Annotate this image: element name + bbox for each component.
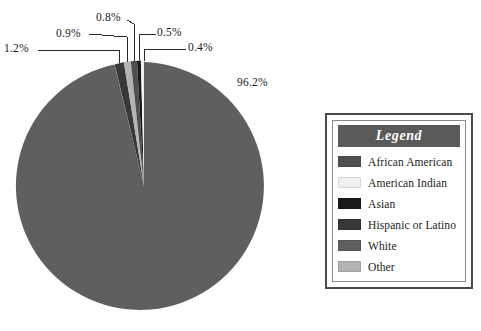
legend-swatch-hispanic-or-latino <box>338 219 361 230</box>
legend-label-american-indian: American Indian <box>368 177 447 189</box>
legend-item-american-indian: American Indian <box>338 173 460 193</box>
legend-item-hispanic-or-latino: Hispanic or Latino <box>338 215 460 235</box>
legend-label-asian: Asian <box>368 198 395 210</box>
leader-line-hispanic <box>38 50 119 63</box>
legend-item-african-american: African American <box>338 152 460 172</box>
legend-title: Legend <box>376 128 422 144</box>
leader-line-american-indian <box>144 49 186 61</box>
pie-label-hispanic-or-latino: 1.2% <box>4 42 29 54</box>
legend-label-white: White <box>368 240 397 252</box>
pie-label-white: 96.2% <box>237 76 268 88</box>
legend-title-bar: Legend <box>338 125 460 147</box>
legend: Legend African American American Indian … <box>325 113 473 289</box>
pie-label-african-american: 0.8% <box>96 11 121 23</box>
legend-item-white: White <box>338 236 460 256</box>
legend-label-hispanic-or-latino: Hispanic or Latino <box>368 219 456 231</box>
leader-line-other <box>89 34 127 62</box>
legend-item-asian: Asian <box>338 194 460 214</box>
legend-swatch-american-indian <box>338 177 361 188</box>
legend-swatch-other <box>338 261 361 272</box>
pie-chart-figure: 1.2% 0.9% 0.8% 0.5% 0.4% 96.2% Legend Af… <box>0 0 481 331</box>
leader-line-asian <box>139 34 156 60</box>
legend-swatch-asian <box>338 198 361 209</box>
pie-label-other: 0.9% <box>56 27 81 39</box>
pie-slices <box>16 60 264 309</box>
pie-label-american-indian: 0.4% <box>188 41 213 53</box>
legend-label-african-american: African American <box>368 156 452 168</box>
legend-inner-frame: Legend African American American Indian … <box>332 120 466 282</box>
pie-label-asian: 0.5% <box>157 26 182 38</box>
legend-swatch-white <box>338 240 361 251</box>
legend-label-other: Other <box>368 261 395 273</box>
legend-swatch-african-american <box>338 156 361 167</box>
legend-items: African American American Indian Asian H… <box>338 151 460 277</box>
leader-line-african-american <box>127 20 134 61</box>
legend-item-other: Other <box>338 257 460 277</box>
